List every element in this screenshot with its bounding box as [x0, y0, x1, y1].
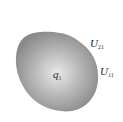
potential-u21-label: U21 [90, 37, 104, 50]
diagram-canvas: q1 U21 U11 [0, 0, 123, 122]
potential-u11-label: U11 [100, 65, 114, 78]
